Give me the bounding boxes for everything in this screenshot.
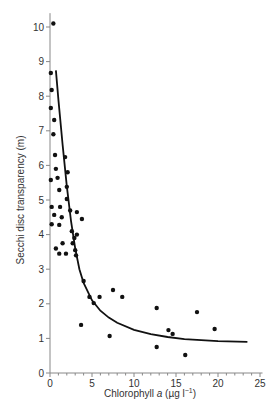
data-point [49, 106, 53, 110]
data-point [154, 306, 158, 310]
y-tick-label: 10 [33, 22, 45, 33]
data-point [54, 167, 58, 171]
data-point [57, 223, 61, 227]
data-point [79, 323, 83, 327]
data-point [57, 188, 61, 192]
y-tick-label: 5 [38, 195, 44, 206]
data-point [65, 185, 69, 189]
data-point [60, 241, 64, 245]
y-tick-label: 6 [38, 160, 44, 171]
y-tick-label: 3 [38, 264, 44, 275]
data-point [70, 241, 74, 245]
data-point [170, 332, 174, 336]
data-point [120, 295, 124, 299]
data-point [81, 279, 85, 283]
y-tick-label: 1 [38, 333, 44, 344]
x-tick-label: 0 [47, 378, 53, 389]
data-point [53, 153, 57, 157]
y-axis-label: Secchi disc transparency (m) [15, 136, 26, 265]
fitted-curve [56, 70, 248, 342]
data-point [52, 118, 56, 122]
data-point [107, 334, 111, 338]
data-point [97, 295, 101, 299]
data-point [51, 21, 55, 25]
y-tick-label: 8 [38, 91, 44, 102]
data-point [73, 248, 77, 252]
data-point [57, 251, 61, 255]
data-point [65, 170, 69, 174]
data-point [154, 345, 158, 349]
data-point [63, 155, 67, 159]
data-point [166, 328, 170, 332]
data-point [49, 222, 53, 226]
x-tick-label: 5 [89, 378, 95, 389]
data-point [49, 88, 53, 92]
y-tick-label: 2 [38, 298, 44, 309]
data-point [183, 353, 187, 357]
axes [50, 13, 263, 373]
data-point [64, 251, 68, 255]
data-point [49, 205, 53, 209]
data-point [52, 213, 56, 217]
x-axis-ticks: 0510152025 [47, 373, 266, 389]
y-tick-label: 4 [38, 229, 44, 240]
x-axis-label: Chlorophyll a (µg l−1) [104, 387, 196, 399]
data-point [51, 132, 55, 136]
data-points [49, 21, 217, 357]
data-point [49, 71, 53, 75]
data-point [80, 217, 84, 221]
data-point [65, 197, 69, 201]
data-point [74, 253, 78, 257]
data-point [87, 295, 91, 299]
data-point [54, 246, 58, 250]
y-tick-label: 9 [38, 56, 44, 67]
data-point [49, 178, 53, 182]
data-point [195, 310, 199, 314]
y-axis-ticks: 012345678910 [33, 22, 50, 379]
data-point [75, 210, 79, 214]
data-point [111, 288, 115, 292]
data-point [55, 176, 59, 180]
data-point [58, 205, 62, 209]
data-point [70, 229, 74, 233]
data-point [68, 208, 72, 212]
data-point [60, 215, 64, 219]
data-point [72, 236, 76, 240]
y-tick-label: 7 [38, 125, 44, 136]
scatter-chart: 012345678910 0510152025 Secchi disc tran… [0, 0, 279, 411]
y-tick-label: 0 [38, 368, 44, 379]
data-point [91, 301, 95, 305]
data-point [212, 327, 216, 331]
x-tick-label: 20 [212, 378, 224, 389]
x-tick-label: 25 [254, 378, 266, 389]
